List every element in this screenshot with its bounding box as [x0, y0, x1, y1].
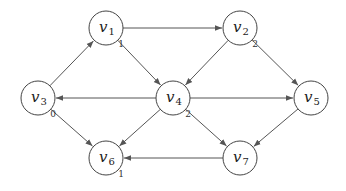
node-v5: v5 — [294, 81, 328, 115]
edge-v2-to-v5 — [252, 40, 298, 85]
edge-v3-to-v1 — [50, 41, 94, 86]
node-v2: v22 — [223, 11, 258, 49]
node-annotation: 1 — [118, 169, 124, 179]
node-v3: v30 — [21, 81, 56, 119]
edge-v5-to-v7 — [254, 109, 298, 146]
edge-v2-to-v4 — [185, 40, 228, 85]
node-v7: v7 — [223, 141, 257, 175]
node-v1: v11 — [89, 11, 124, 49]
node-annotation: 1 — [118, 39, 124, 49]
node-v6: v61 — [89, 141, 124, 179]
node-v4: v42 — [156, 81, 191, 119]
edge-v1-to-v4 — [118, 40, 161, 85]
node-annotation: 2 — [185, 109, 191, 119]
directed-graph-diagram: v11v22v30v42v5v61v7 — [0, 0, 346, 191]
node-annotation: 2 — [252, 39, 258, 49]
nodes-layer: v11v22v30v42v5v61v7 — [21, 11, 328, 179]
edge-v4-to-v7 — [186, 109, 227, 146]
node-annotation: 0 — [50, 109, 56, 119]
edge-v4-to-v6 — [119, 109, 160, 146]
edge-v3-to-v6 — [51, 109, 93, 146]
